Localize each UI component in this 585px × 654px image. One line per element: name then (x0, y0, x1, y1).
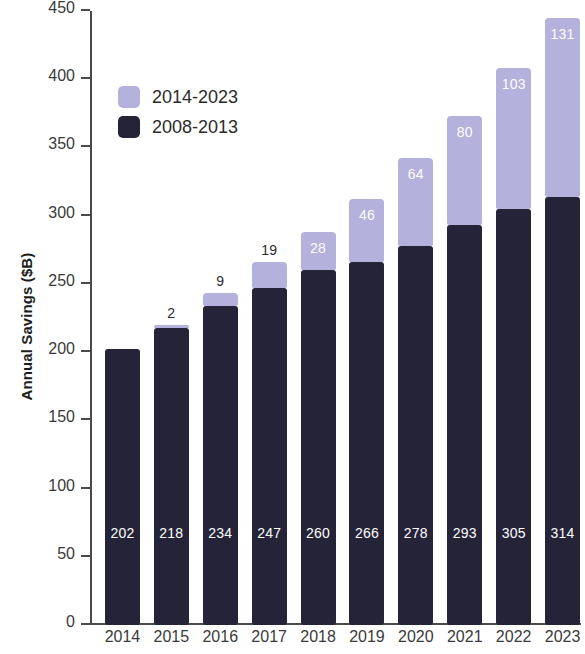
bar-value-label: 19 (252, 242, 287, 258)
bar-segment-2008-2013: 314 (545, 197, 580, 625)
legend-swatch-icon (118, 116, 140, 138)
bar-segment-2008-2013: 247 (252, 288, 287, 625)
x-axis-label: 2022 (488, 628, 539, 646)
stacked-bar-chart: Annual Savings ($B) 45040035030025020015… (0, 0, 585, 654)
bar-segment-2014-2023 (545, 18, 580, 197)
bar-segment-2008-2013: 202 (105, 349, 140, 625)
x-axis-label: 2015 (146, 628, 197, 646)
x-axis-label: 2014 (97, 628, 148, 646)
y-axis-tick: 150 (81, 418, 90, 420)
x-axis-label: 2019 (341, 628, 392, 646)
legend-label: 2008-2013 (152, 117, 238, 138)
bar-value-label: 278 (398, 525, 433, 541)
bar-value-label: 218 (154, 525, 189, 541)
y-axis-tick-label: 450 (48, 0, 75, 17)
x-axis-label: 2016 (195, 628, 246, 646)
bar-value-label: 9 (203, 273, 238, 289)
bar-segment-2014-2023 (154, 325, 189, 328)
bar-value-label: 28 (301, 240, 336, 256)
bar-group: 26028 (301, 232, 336, 625)
bar-group: 29380 (447, 116, 482, 625)
y-axis-tick-label: 400 (48, 67, 75, 85)
bar-segment-2008-2013: 305 (496, 209, 531, 625)
y-axis-title: Annual Savings ($B) (18, 227, 35, 427)
bar-segment-2008-2013: 278 (398, 246, 433, 625)
y-axis-tick: 50 (81, 555, 90, 557)
bar-value-label: 202 (105, 525, 140, 541)
legend-item-2014-2023: 2014-2023 (118, 84, 238, 110)
y-axis-tick: 0 (81, 623, 90, 625)
bar-value-label: 2 (154, 305, 189, 321)
bar-group: 314131 (545, 18, 580, 625)
y-axis-tick-label: 300 (48, 204, 75, 222)
y-axis-tick: 100 (81, 487, 90, 489)
y-axis-tick-label: 150 (48, 408, 75, 426)
y-axis-tick: 450 (81, 9, 90, 11)
bar-group: 26646 (349, 199, 384, 625)
bar-group: 27864 (398, 158, 433, 625)
y-axis-tick-label: 350 (48, 135, 75, 153)
x-axis-label: 2017 (244, 628, 295, 646)
bar-segment-2008-2013: 234 (203, 306, 238, 625)
legend-label: 2014-2023 (152, 87, 238, 108)
x-axis-label: 2020 (390, 628, 441, 646)
bar-segment-2008-2013: 266 (349, 262, 384, 625)
x-axis-label: 2021 (439, 628, 490, 646)
y-axis-tick: 250 (81, 282, 90, 284)
y-axis-tick: 400 (81, 77, 90, 79)
bar-group: 2349 (203, 293, 238, 625)
bar-group: 202 (105, 349, 140, 625)
y-axis-tick: 200 (81, 350, 90, 352)
bar-group: 24719 (252, 262, 287, 625)
bar-value-label: 314 (545, 525, 580, 541)
legend-item-2008-2013: 2008-2013 (118, 114, 238, 140)
y-axis-tick-label: 250 (48, 272, 75, 290)
legend-swatch-icon (118, 86, 140, 108)
y-axis-tick: 350 (81, 145, 90, 147)
bar-value-label: 46 (349, 207, 384, 223)
y-axis-tick-label: 50 (57, 545, 75, 563)
bar-value-label: 234 (203, 525, 238, 541)
y-axis-tick-label: 100 (48, 477, 75, 495)
bar-segment-2014-2023 (252, 262, 287, 288)
bar-value-label: 305 (496, 525, 531, 541)
y-axis-tick-label: 0 (66, 613, 75, 631)
bar-group: 2182 (154, 325, 189, 625)
bar-value-label: 64 (398, 166, 433, 182)
y-axis-tick: 300 (81, 214, 90, 216)
bar-value-label: 80 (447, 124, 482, 140)
chart-legend: 2014-2023 2008-2013 (118, 84, 238, 144)
bar-segment-2008-2013: 218 (154, 328, 189, 625)
bar-value-label: 131 (545, 26, 580, 42)
bar-value-label: 260 (301, 525, 336, 541)
bar-value-label: 266 (349, 525, 384, 541)
bar-value-label: 247 (252, 525, 287, 541)
bar-value-label: 293 (447, 525, 482, 541)
bar-segment-2008-2013: 293 (447, 225, 482, 625)
bar-value-label: 103 (496, 76, 531, 92)
bar-segment-2008-2013: 260 (301, 270, 336, 625)
x-axis-label: 2018 (293, 628, 344, 646)
bar-segment-2014-2023 (203, 293, 238, 305)
x-axis-label: 2023 (537, 628, 585, 646)
bar-group: 305103 (496, 68, 531, 625)
y-axis-tick-label: 200 (48, 340, 75, 358)
